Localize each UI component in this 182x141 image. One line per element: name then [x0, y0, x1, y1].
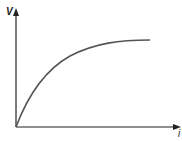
x-axis-label: i	[178, 128, 180, 139]
saturation-curve	[16, 40, 150, 127]
y-axis-arrow-icon	[13, 8, 19, 16]
y-axis	[13, 8, 19, 127]
x-axis	[16, 124, 181, 130]
figure-canvas: V i	[0, 0, 182, 141]
plot-svg	[0, 0, 182, 141]
y-axis-label: V	[6, 6, 13, 17]
